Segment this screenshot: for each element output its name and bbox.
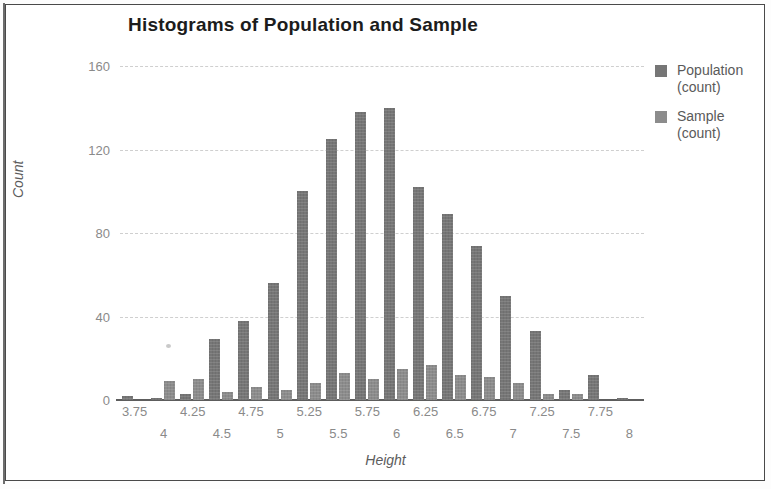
- bar-population: [442, 214, 453, 400]
- legend-label: Sample: [677, 108, 767, 125]
- bar-population: [297, 191, 308, 400]
- x-axis-tick-label: 4: [160, 426, 167, 441]
- x-axis-tick-label: 8: [626, 426, 633, 441]
- x-axis-tick-label: 6: [393, 426, 400, 441]
- bar-sample: [397, 369, 408, 400]
- bar-sample: [484, 377, 495, 400]
- x-axis-tick-label: 5.25: [297, 404, 322, 419]
- y-axis-tick-label: 0: [103, 393, 110, 408]
- y-axis-tick-label: 40: [96, 309, 110, 324]
- y-axis-tick-label: 160: [88, 59, 110, 74]
- bar-sample: [164, 381, 175, 400]
- legend-item[interactable]: Population(count): [655, 62, 767, 96]
- bar-population: [238, 321, 249, 400]
- x-axis-tick-label: 7: [509, 426, 516, 441]
- x-axis-tick-label: 4.5: [213, 426, 231, 441]
- bar-population: [471, 246, 482, 400]
- bar-population: [326, 139, 337, 400]
- y-axis-title: Count: [10, 161, 26, 198]
- x-axis-tick-label: 6.25: [413, 404, 438, 419]
- bar-population: [384, 108, 395, 400]
- bar-sample: [455, 375, 466, 400]
- x-axis-tick-label: 7.25: [529, 404, 554, 419]
- x-axis-tick-label: 4.25: [180, 404, 205, 419]
- gridline: [120, 317, 644, 318]
- x-axis-tick-label: 5.75: [355, 404, 380, 419]
- bar-sample: [572, 394, 583, 400]
- x-axis-tick-label: 3.75: [122, 404, 147, 419]
- bar-sample: [543, 394, 554, 400]
- bar-sample: [513, 383, 524, 400]
- legend-item[interactable]: Sample(count): [655, 108, 767, 142]
- legend-label: Population: [677, 62, 767, 79]
- bar-sample: [281, 390, 292, 400]
- plot-area: [120, 66, 644, 400]
- bar-population: [122, 396, 133, 400]
- gridline: [120, 233, 644, 234]
- bar-sample: [222, 392, 233, 400]
- bar-population: [355, 112, 366, 400]
- chart-page: Histograms of Population and Sample Coun…: [0, 0, 771, 489]
- chart-legend: Population(count)Sample(count): [655, 62, 767, 154]
- bar-sample: [426, 365, 437, 400]
- bar-population: [530, 331, 541, 400]
- legend-swatch-icon: [655, 65, 667, 77]
- y-axis-tick-label: 80: [96, 226, 110, 241]
- bar-population: [180, 394, 191, 400]
- gridline: [120, 66, 644, 67]
- x-axis-tick-label: 4.75: [238, 404, 263, 419]
- bar-population: [500, 296, 511, 400]
- x-axis-tick-label: 5.5: [329, 426, 347, 441]
- bar-population: [559, 390, 570, 400]
- chart-title: Histograms of Population and Sample: [128, 14, 478, 36]
- bar-sample: [310, 383, 321, 400]
- gridline: [120, 150, 644, 151]
- bar-sample: [193, 379, 204, 400]
- x-axis-tick-labels: 3.7544.254.54.7555.255.55.7566.256.56.75…: [120, 404, 650, 448]
- x-axis-tick-label: 6.5: [446, 426, 464, 441]
- legend-sublabel: (count): [677, 79, 767, 96]
- bar-sample: [368, 379, 379, 400]
- bar-population: [413, 187, 424, 400]
- y-axis-tick-label: 120: [88, 142, 110, 157]
- bar-population: [268, 283, 279, 400]
- bar-population: [617, 398, 628, 400]
- x-axis-title: Height: [0, 452, 771, 468]
- y-axis-tick-labels: 04080120160: [60, 66, 118, 400]
- x-axis-tick-label: 7.5: [562, 426, 580, 441]
- legend-sublabel: (count): [677, 125, 767, 142]
- x-axis-tick-label: 6.75: [471, 404, 496, 419]
- x-axis-tick-label: 5: [276, 426, 283, 441]
- bar-sample: [339, 373, 350, 400]
- bar-population: [588, 375, 599, 400]
- x-axis-tick-label: 7.75: [588, 404, 613, 419]
- bar-population: [209, 339, 220, 400]
- bar-population: [151, 398, 162, 400]
- scan-artifact: [166, 344, 171, 348]
- legend-swatch-icon: [655, 111, 667, 123]
- bar-sample: [251, 387, 262, 400]
